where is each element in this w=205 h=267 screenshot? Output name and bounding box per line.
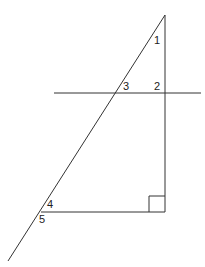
angle-label-3: 3 bbox=[123, 80, 129, 92]
angle-label-2: 2 bbox=[154, 80, 160, 92]
angle-label-1: 1 bbox=[154, 34, 160, 46]
angle-label-4: 4 bbox=[47, 198, 53, 210]
right-angle-marker bbox=[149, 196, 165, 212]
angle-label-5: 5 bbox=[39, 213, 45, 225]
hypotenuse-line bbox=[8, 15, 165, 261]
geometry-diagram: 1 2 3 4 5 bbox=[0, 0, 205, 267]
